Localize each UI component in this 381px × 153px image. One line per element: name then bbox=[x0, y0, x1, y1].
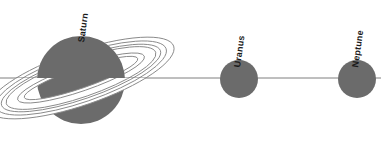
diagram-canvas bbox=[0, 0, 381, 153]
outer-planets-diagram: Saturn Uranus Neptune bbox=[0, 0, 381, 153]
